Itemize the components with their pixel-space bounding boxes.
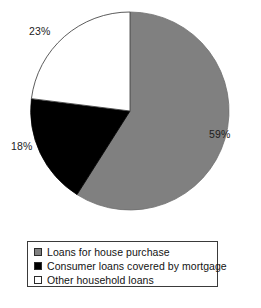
pie-chart-figure: 23% 59% 18% Loans for house purchase Con… [0,0,261,308]
legend-label-loans-for-house-purchase: Loans for house purchase [47,247,170,258]
legend-item-loans-for-house-purchase[interactable]: Loans for house purchase [34,245,217,259]
legend-label-other-household-loans: Other household loans [47,275,154,286]
legend-swatch-black [34,262,42,270]
pie-label-other-household-loans: 23% [29,26,50,37]
legend-swatch-white [34,276,42,284]
pie-label-loans-for-house-purchase: 59% [209,129,230,140]
legend-swatch-gray [34,248,42,256]
legend-label-consumer-loans-covered-by-mortgage: Consumer loans covered by mortgage [47,261,227,272]
legend-item-other-household-loans[interactable]: Other household loans [34,273,217,287]
chart-legend: Loans for house purchase Consumer loans … [27,241,218,287]
pie-label-consumer-loans-covered-by-mortgage: 18% [11,141,32,152]
legend-item-consumer-loans-covered-by-mortgage[interactable]: Consumer loans covered by mortgage [34,259,217,273]
